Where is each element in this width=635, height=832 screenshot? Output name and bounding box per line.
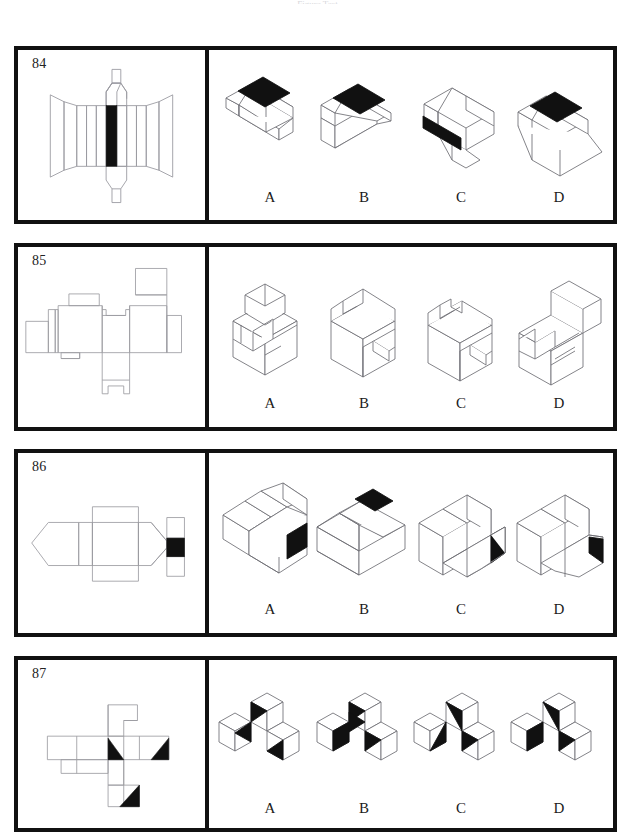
option-figure-b-84 — [321, 84, 391, 148]
option-figure-a-86 — [223, 483, 307, 573]
net-pane-86: 86 — [18, 453, 209, 633]
net-black-triangle-3-87 — [120, 785, 140, 807]
net-diagram-87 — [18, 660, 205, 828]
puzzle-item-86[interactable]: 86 — [14, 449, 617, 637]
option-label-b-87[interactable]: B — [352, 800, 376, 817]
option-label-c-85[interactable]: C — [449, 395, 473, 412]
net-black-triangle-1-87 — [108, 738, 124, 760]
net-diagram-86 — [18, 453, 205, 633]
option-figure-d-85 — [519, 281, 601, 385]
option-figure-a-87 — [219, 693, 299, 760]
option-label-b-84[interactable]: B — [352, 189, 376, 206]
option-label-d-85[interactable]: D — [547, 395, 571, 412]
option-figure-b-87 — [317, 693, 397, 760]
option-figure-c-87 — [414, 693, 494, 760]
option-figure-b-86 — [317, 489, 405, 575]
puzzle-item-84[interactable]: 84 — [14, 46, 617, 224]
net-black-face-86 — [167, 538, 185, 557]
net-pane-85: 85 — [18, 247, 209, 427]
option-label-c-84[interactable]: C — [449, 189, 473, 206]
net-pane-84: 84 — [18, 50, 209, 220]
option-label-a-84[interactable]: A — [258, 189, 282, 206]
page-header-faint-text: Figure Test — [0, 0, 635, 4]
net-black-triangle-2-87 — [151, 738, 169, 760]
option-label-c-87[interactable]: C — [449, 800, 473, 817]
option-figure-d-84 — [518, 92, 602, 176]
option-label-d-87[interactable]: D — [547, 800, 571, 817]
option-figure-c-85 — [428, 299, 492, 381]
option-figure-c-86 — [419, 495, 505, 577]
net-pane-87: 87 — [18, 660, 209, 828]
options-pane-85: A B C D — [209, 247, 613, 427]
option-label-c-86[interactable]: C — [449, 601, 473, 618]
option-label-d-86[interactable]: D — [547, 601, 571, 618]
option-figure-a-84 — [226, 77, 293, 140]
options-pane-87: A B C D — [209, 660, 613, 828]
net-diagram-85 — [18, 247, 205, 427]
net-diagram-84 — [18, 50, 205, 220]
puzzle-item-85[interactable]: 85 — [14, 243, 617, 431]
option-label-b-85[interactable]: B — [352, 395, 376, 412]
option-figure-b-85 — [331, 289, 395, 377]
option-figure-a-85 — [233, 284, 297, 375]
puzzle-item-87[interactable]: 87 — [14, 656, 617, 832]
option-figure-c-84 — [423, 88, 494, 168]
options-pane-84: A B C D — [209, 50, 613, 220]
net-black-face-84 — [106, 106, 117, 167]
option-label-a-87[interactable]: A — [258, 800, 282, 817]
option-figure-d-86 — [517, 495, 603, 577]
option-figure-d-87 — [511, 693, 591, 760]
option-label-a-86[interactable]: A — [258, 601, 282, 618]
option-label-d-84[interactable]: D — [547, 189, 571, 206]
option-label-a-85[interactable]: A — [258, 395, 282, 412]
options-pane-86: A B C D — [209, 453, 613, 633]
option-label-b-86[interactable]: B — [352, 601, 376, 618]
